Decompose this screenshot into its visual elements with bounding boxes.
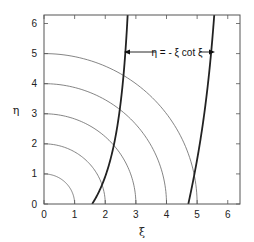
- x-tick-label: 5: [194, 209, 200, 220]
- circle-series: [44, 84, 167, 204]
- x-axis-label: ξ: [139, 226, 145, 239]
- circle-series: [44, 144, 105, 204]
- circle-series: [44, 54, 197, 204]
- y-tick-label: 6: [31, 18, 37, 29]
- x-tick-label: 1: [72, 209, 78, 220]
- x-tick-label: 3: [133, 209, 139, 220]
- x-tick-label: 0: [41, 209, 47, 220]
- circle-series: [44, 174, 75, 204]
- annotation-label: η = - ξ cot ξ: [152, 47, 203, 59]
- y-tick-label: 2: [31, 138, 37, 149]
- plot-area: [44, 1, 215, 204]
- x-tick-label: 6: [225, 209, 231, 220]
- y-tick-label: 4: [31, 78, 37, 89]
- y-axis-label: η: [13, 104, 20, 117]
- axis-ticks: 01234560123456: [31, 15, 240, 220]
- plot-frame: [44, 15, 240, 204]
- y-tick-label: 5: [31, 48, 37, 59]
- x-tick-label: 4: [164, 209, 170, 220]
- cot-curve-series: [188, 1, 215, 204]
- chart: 01234560123456 ξ η η = - ξ cot ξ: [0, 0, 254, 242]
- x-tick-label: 2: [102, 209, 108, 220]
- circle-series: [44, 114, 136, 204]
- y-tick-label: 0: [31, 199, 37, 210]
- y-tick-label: 1: [31, 168, 37, 179]
- y-tick-label: 3: [31, 108, 37, 119]
- curve-annotation: η = - ξ cot ξ: [124, 47, 215, 59]
